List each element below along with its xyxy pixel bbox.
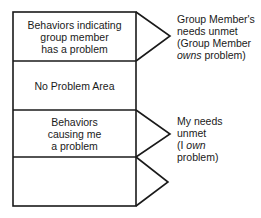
cell-text-line: a problem	[48, 140, 102, 152]
cell-text-line: No Problem Area	[35, 80, 115, 92]
annotation-tail: problem)	[202, 49, 246, 61]
cell-text-line: Behaviors	[48, 116, 102, 128]
emphasis-text: owns	[177, 49, 202, 61]
pane-no-problem-area: No Problem Area	[13, 61, 136, 110]
annotation-line: My needs	[177, 115, 223, 127]
cell-text-line: causing me	[48, 128, 102, 140]
annotation-line: problem)	[177, 151, 223, 163]
pane-empty	[13, 157, 136, 206]
annotation-line: needs unmet	[177, 25, 255, 37]
annotation-prefix: (I	[177, 139, 186, 151]
cell-text-line: group member	[28, 31, 122, 43]
annotation-group-member-owns: Group Member's needs unmet (Group Member…	[177, 13, 255, 61]
annotation-line: Group Member's	[177, 13, 255, 25]
emphasis-text: own	[186, 139, 205, 151]
cell-text-line: Behaviors indicating	[28, 19, 122, 31]
annotation-line: owns problem)	[177, 49, 255, 61]
cell-text-line: has a problem	[28, 43, 122, 55]
annotation-i-own: My needs unmet (I own problem)	[177, 115, 223, 163]
annotation-line: (Group Member	[177, 37, 255, 49]
annotation-line: (I own	[177, 139, 223, 151]
pane-group-member-problem: Behaviors indicating group member has a …	[13, 12, 136, 61]
annotation-line: unmet	[177, 127, 223, 139]
pane-behaviors-causing-me-problem: Behaviors causing me a problem	[13, 110, 136, 157]
